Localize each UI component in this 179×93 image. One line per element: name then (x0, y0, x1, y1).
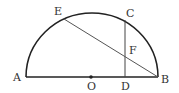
geometry-diagram: A B C D E F O (0, 0, 179, 93)
label-a: A (12, 71, 22, 84)
label-c: C (126, 7, 134, 20)
chord-eb (64, 19, 158, 77)
label-e: E (54, 5, 62, 18)
center-point-o (89, 75, 93, 79)
label-d: D (121, 80, 130, 93)
label-f: F (129, 44, 137, 57)
label-o: O (87, 80, 96, 93)
semicircle-arc (26, 13, 158, 77)
label-b: B (161, 73, 169, 86)
